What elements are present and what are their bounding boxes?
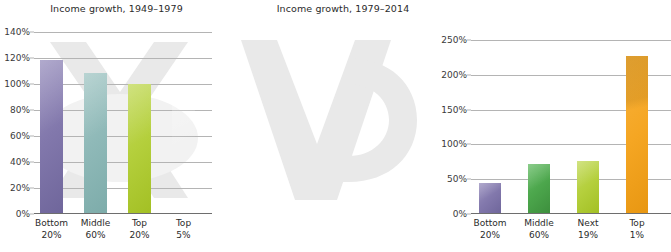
xlabel-line2: 20% [473,230,506,242]
xlabel-bottom-20: Bottom 20% [35,218,68,241]
xlabel-middle-60: Middle 60% [524,218,554,241]
xlabel-line1: Top [176,218,191,228]
ytick-label: 60% [10,131,34,141]
ytick-label: 50% [447,174,471,184]
watermark-right-icon [229,24,429,224]
ytick-label: 120% [4,53,34,63]
bar-highlight [84,73,107,213]
ytick-label: 100% [441,139,471,149]
bar-middle-60[interactable] [528,164,550,213]
ytick-label: 140% [4,27,34,37]
bar-bottom-20[interactable] [479,183,501,213]
ytick-label: 20% [10,183,34,193]
bar-bottom-20[interactable] [40,60,63,213]
bar-top-5[interactable] [172,100,195,213]
xlabel-line2: 60% [81,230,111,242]
xlabel-line2: 60% [524,230,554,242]
ytick-label: 250% [441,35,471,45]
xlabel-line1: Middle [524,218,554,228]
xlabel-line2: 20% [35,230,68,242]
ytick-label: 200% [441,70,471,80]
bar-highlight [479,183,501,213]
plot-area-left: 140% 120% 100% 80% 60% 40% 20% 0% [34,32,212,214]
x-axis-baseline [34,213,212,214]
xlabel-top-5: Top 5% [176,218,191,241]
bar-top-20[interactable] [128,84,151,213]
xlabel-next-19: Next 19% [578,218,599,241]
bar-highlight [577,161,599,213]
ytick-label: 0% [16,209,34,219]
xlabel-bottom-20: Bottom 20% [473,218,506,241]
bar-highlight [40,60,63,213]
chart-panel-left: Income growth, 1949–1979 140% 120% 100% … [0,0,219,252]
bar-highlight [172,100,195,213]
ytick-label: 100% [4,79,34,89]
ytick-label: 0% [453,209,471,219]
bar-highlight [528,164,550,213]
xlabel-line1: Top [629,218,644,228]
xlabel-line2: 5% [176,230,191,242]
xlabel-top-20: Top 20% [129,218,149,241]
bar-highlight [626,56,648,213]
bar-next-19[interactable] [577,161,599,213]
xlabel-middle-60: Middle 60% [81,218,111,241]
chart-panel-right: Income growth, 1979–2014 250% 200% 150% … [219,0,461,252]
xlabel-line1: Middle [81,218,111,228]
xlabel-line2: 19% [578,230,599,242]
xlabel-line1: Bottom [35,218,68,228]
bar-highlight [128,84,151,213]
plot-area-right: 250% 200% 150% 100% 50% 0% Bottom 20% [471,40,671,214]
xlabel-line1: Top [132,218,147,228]
ytick-label: 80% [10,105,34,115]
xlabel-line2: 1% [629,230,644,242]
xlabel-line1: Bottom [473,218,506,228]
bar-middle-60[interactable] [84,73,107,213]
ytick-label: 40% [10,157,34,167]
x-axis-baseline [471,213,671,214]
xlabel-line1: Next [578,218,599,228]
xlabel-line2: 20% [129,230,149,242]
ytick-label: 150% [441,105,471,115]
gridline [34,32,212,33]
gridline [471,40,671,41]
chart-title-left: Income growth, 1949–1979 [0,3,219,14]
xlabel-top-1: Top 1% [629,218,644,241]
bar-top-1[interactable] [626,56,648,213]
chart-title-right: Income growth, 1979–2014 [219,3,461,14]
